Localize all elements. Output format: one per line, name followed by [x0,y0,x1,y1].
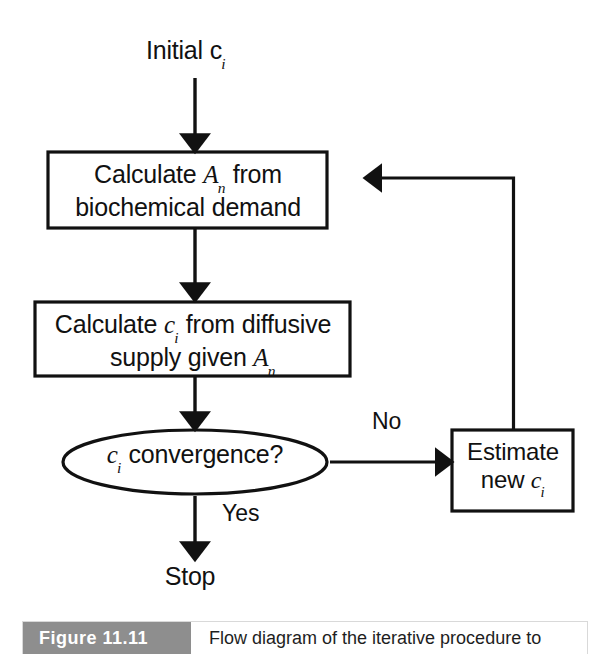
figure-caption-bar: Figure 11.11 Flow diagram of the iterati… [22,621,588,654]
node-calc-an-label: Calculate An from biochemical demand [50,160,326,222]
edge-label-no: No [372,408,401,435]
node-stop-label: Stop [115,562,265,591]
calc-ci-line2: supply given An [37,343,349,376]
calc-ci-line1: Calculate ci from diffusive [37,310,349,343]
edge-label-yes: Yes [222,500,260,527]
node-calc-ci-label: Calculate ci from diffusive supply given… [37,310,349,376]
node-estimate-label: Estimate new ci [453,438,573,497]
estimate-line1: Estimate [453,438,573,466]
node-start-label: Initial ci [96,36,276,69]
start-subscript: i [221,55,225,72]
calc-an-line2: biochemical demand [50,193,326,222]
edge-estimate-to-calc-an [374,178,514,430]
figure-number-badge: Figure 11.11 [23,622,191,654]
calc-an-line1: Calculate An from [50,160,326,193]
estimate-line2: new ci [453,466,573,498]
node-convergence-label: ci convergence? [70,440,320,473]
figure-container: Initial ci Calculate An from biochemical… [0,0,604,654]
start-text: Initial c [146,36,222,64]
figure-caption-text: Flow diagram of the iterative procedure … [191,622,587,654]
